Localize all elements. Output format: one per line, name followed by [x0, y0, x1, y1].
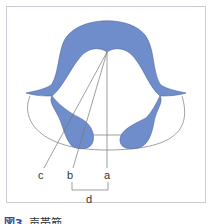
- pointer-line-c: [44, 52, 107, 168]
- label-a: a: [104, 170, 110, 181]
- right-arytenoid-muscle: [120, 96, 161, 149]
- left-arytenoid-muscle: [51, 96, 94, 149]
- figure-caption: 図3声帯筋: [4, 214, 62, 224]
- pointer-line-b: [73, 52, 107, 168]
- label-b: b: [67, 170, 73, 181]
- label-c: c: [38, 170, 44, 181]
- label-d: d: [86, 194, 92, 205]
- larynx-diagram: [0, 0, 212, 224]
- glottis-outline: [28, 96, 185, 150]
- arch-muscle: [26, 21, 186, 96]
- figure-number: 図3: [4, 217, 23, 224]
- figure-title: 声帯筋: [29, 217, 62, 224]
- bracket-d: [72, 182, 108, 190]
